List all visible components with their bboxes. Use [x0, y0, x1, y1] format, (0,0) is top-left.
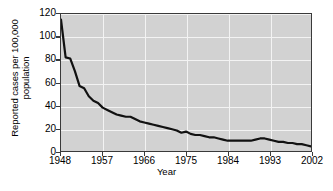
x-tick-mark: [270, 152, 271, 156]
y-tick-label: 60: [4, 78, 56, 88]
x-tick-mark: [102, 152, 103, 156]
x-tick-mark: [60, 152, 61, 156]
y-tick-label: 80: [4, 54, 56, 64]
x-axis-title: Year: [0, 166, 333, 177]
plot-area: [60, 13, 312, 152]
line-chart: Reported cases per 100,000 population 02…: [0, 0, 333, 191]
y-tick-label: 40: [4, 101, 56, 111]
x-tick-label: 1975: [164, 156, 208, 166]
x-tick-label: 2002: [290, 156, 333, 166]
x-tick-mark: [312, 152, 313, 156]
x-tick-label: 1948: [38, 156, 82, 166]
x-tick-mark: [144, 152, 145, 156]
x-tick-label: 1966: [122, 156, 166, 166]
x-tick-mark: [228, 152, 229, 156]
y-tick-label: 120: [4, 8, 56, 18]
y-tick-label: 100: [4, 31, 56, 41]
x-tick-label: 1957: [80, 156, 124, 166]
x-tick-mark: [186, 152, 187, 156]
data-series-line: [61, 14, 311, 151]
x-tick-label: 1984: [206, 156, 250, 166]
x-tick-label: 1993: [248, 156, 292, 166]
y-tick-label: 20: [4, 124, 56, 134]
